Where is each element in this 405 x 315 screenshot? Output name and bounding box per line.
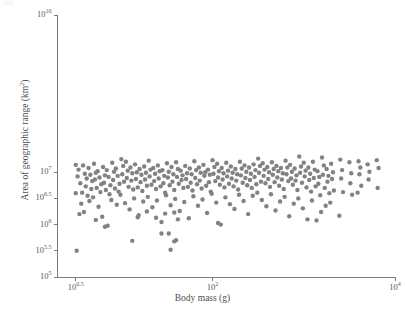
data-point xyxy=(349,171,353,175)
data-point xyxy=(215,162,219,166)
data-point xyxy=(270,160,274,164)
y-axis-title: Area of geographic range (km2) xyxy=(20,30,30,250)
data-point xyxy=(184,177,188,181)
data-point xyxy=(211,172,215,176)
data-point xyxy=(156,163,160,167)
data-point xyxy=(367,169,371,173)
data-point xyxy=(324,167,328,171)
data-point xyxy=(161,181,165,185)
data-point xyxy=(181,186,185,190)
data-point xyxy=(199,186,203,190)
data-point xyxy=(273,208,277,212)
data-point xyxy=(199,171,203,175)
data-point xyxy=(206,167,210,171)
data-point xyxy=(240,180,244,184)
data-point xyxy=(116,174,120,178)
data-point xyxy=(350,193,354,197)
data-point xyxy=(178,209,182,213)
data-point xyxy=(259,179,263,183)
data-point xyxy=(357,172,361,176)
data-point xyxy=(193,176,197,180)
data-point xyxy=(84,176,88,180)
data-point xyxy=(283,158,287,162)
data-point xyxy=(154,187,158,191)
data-point xyxy=(234,178,238,182)
data-point xyxy=(192,159,196,163)
data-point xyxy=(303,174,307,178)
data-point xyxy=(128,165,132,169)
data-point xyxy=(214,200,218,204)
data-point xyxy=(146,195,150,199)
data-point xyxy=(132,196,136,200)
data-point xyxy=(280,177,284,181)
data-point xyxy=(253,168,257,172)
data-point xyxy=(329,162,333,166)
data-point xyxy=(328,200,332,204)
data-point xyxy=(207,180,211,184)
data-point xyxy=(85,194,89,198)
data-point xyxy=(204,184,208,188)
x-axis-title: Body mass (g) xyxy=(0,293,405,303)
data-point xyxy=(311,160,315,164)
data-point xyxy=(145,209,149,213)
data-point xyxy=(145,184,149,188)
plot-canvas xyxy=(0,0,405,315)
data-point xyxy=(78,181,82,185)
data-point xyxy=(282,187,286,191)
data-point xyxy=(305,217,309,221)
data-point xyxy=(130,239,134,243)
data-point xyxy=(121,164,125,168)
data-point xyxy=(287,214,291,218)
data-point xyxy=(316,182,320,186)
data-point xyxy=(74,163,78,167)
data-point xyxy=(306,165,310,169)
data-point xyxy=(284,172,288,176)
data-point xyxy=(77,212,81,216)
data-point xyxy=(88,173,92,177)
data-point xyxy=(178,168,182,172)
data-point xyxy=(251,162,255,166)
data-point xyxy=(198,178,202,182)
axes-group xyxy=(58,15,396,277)
data-point xyxy=(107,192,111,196)
data-point xyxy=(320,155,324,159)
data-point xyxy=(231,184,235,188)
data-point xyxy=(263,181,267,185)
data-point xyxy=(119,157,123,161)
data-point xyxy=(100,215,104,219)
data-point xyxy=(152,179,156,183)
data-point xyxy=(252,175,256,179)
data-point xyxy=(94,218,98,222)
data-point xyxy=(247,165,251,169)
data-point xyxy=(104,188,108,192)
data-point xyxy=(82,210,86,214)
data-point xyxy=(122,179,126,183)
data-point xyxy=(95,169,99,173)
data-point xyxy=(106,175,110,179)
data-point xyxy=(293,178,297,182)
data-point xyxy=(200,197,204,201)
data-point xyxy=(75,174,79,178)
data-point xyxy=(298,171,302,175)
data-point xyxy=(312,176,316,180)
data-point xyxy=(261,174,265,178)
y-tick-label: 105.5 xyxy=(36,245,52,255)
data-point xyxy=(109,198,113,202)
x-tick-label: 100.5 xyxy=(46,282,106,292)
data-point xyxy=(274,164,278,168)
data-point xyxy=(159,220,163,224)
data-point xyxy=(124,160,128,164)
data-point xyxy=(268,185,272,189)
data-point xyxy=(330,177,334,181)
y-tick-label: 107 xyxy=(40,166,52,176)
data-point xyxy=(279,166,283,170)
data-point xyxy=(202,174,206,178)
data-point xyxy=(168,183,172,187)
data-point xyxy=(301,206,305,210)
y-tick-label: 106 xyxy=(40,219,52,229)
x-tick-label: 104 xyxy=(365,282,405,292)
data-point xyxy=(302,161,306,165)
data-point xyxy=(191,194,195,198)
data-point xyxy=(326,174,330,178)
data-point xyxy=(172,188,176,192)
